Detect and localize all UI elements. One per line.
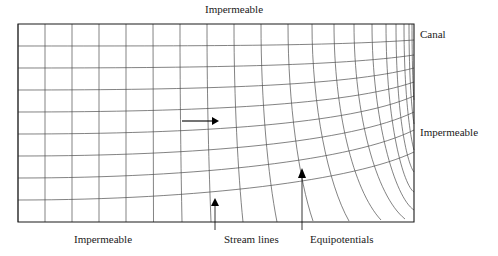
flow-direction-arrow <box>182 117 219 125</box>
equipotentials-leader <box>298 168 306 230</box>
label-equipotentials: Equipotentials <box>310 233 374 245</box>
label-impermeable-right: Impermeable <box>420 126 478 138</box>
flow-net-figure: Impermeable Canal Impermeable Impermeabl… <box>0 0 498 256</box>
label-impermeable-bottom: Impermeable <box>74 233 132 245</box>
label-stream-lines: Stream lines <box>224 233 279 245</box>
stream-lines-leader <box>211 198 219 230</box>
label-impermeable-top: Impermeable <box>205 3 263 15</box>
flow-net-grid <box>18 24 414 222</box>
label-canal: Canal <box>420 28 446 40</box>
